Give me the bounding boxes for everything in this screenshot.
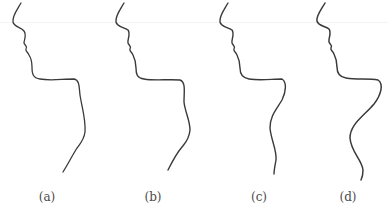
profile-b <box>116 3 190 170</box>
panel-label-d: (d) <box>339 190 356 204</box>
panel-label-c: (c) <box>251 190 267 204</box>
panel-label-b: (b) <box>144 190 161 204</box>
profile-c <box>220 3 286 174</box>
profile-a <box>13 3 85 172</box>
profile-d <box>317 3 381 180</box>
panel-label-a: (a) <box>39 190 56 204</box>
profiles-figure <box>0 0 388 221</box>
